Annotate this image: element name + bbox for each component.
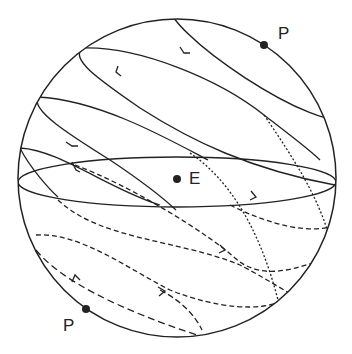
label-pole-bottom: P [63,316,74,336]
diurnal-circle-2-back [82,48,320,160]
diurnal-circle-3-back [38,97,208,160]
label-earth: E [189,169,200,189]
pole-bottom-dot [82,305,90,313]
arrow-icon [219,245,225,253]
dotted-3 [190,153,278,300]
dashed-5 [160,290,202,330]
diurnal-circle-3-front [37,97,176,210]
arrow-icon [180,47,190,53]
sphere-drawing [0,0,352,354]
sphere-diagram: P P E [0,0,352,354]
label-pole-top: P [278,24,289,44]
dotted-2 [264,115,330,240]
diurnal-circle-4-back [20,148,160,205]
dashed-4 [36,250,200,336]
arrow-icon [116,66,121,76]
pole-top-dot [260,41,268,49]
earth-dot [173,175,181,183]
arrow-icon [158,287,165,296]
arrow-icon [250,191,256,200]
dashed-3 [36,235,280,307]
arrow-icon [66,142,78,146]
dashed-2 [58,200,310,305]
